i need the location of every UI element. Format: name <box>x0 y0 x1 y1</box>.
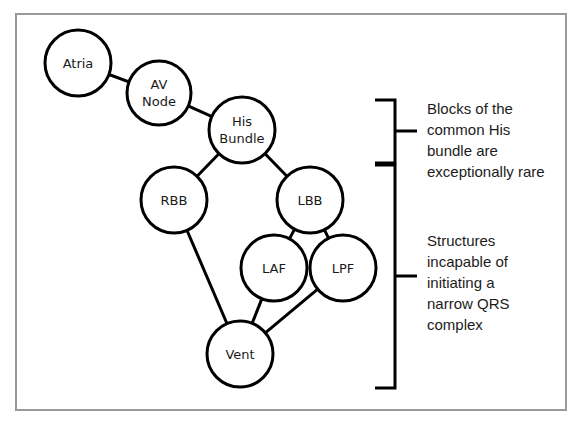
edge-his-bundle-to-lbb <box>264 152 289 178</box>
annotation-text-lower: Structures incapable of initiating a nar… <box>427 230 577 335</box>
edge-atria-to-av-node <box>107 74 131 83</box>
edge-laf-to-vent <box>251 297 262 325</box>
node-label-lbb: LBB <box>297 193 322 208</box>
node-circle-his-bundle[interactable] <box>209 97 275 163</box>
node-av-node[interactable]: AVNode <box>127 61 191 125</box>
node-label-rbb: RBB <box>161 193 188 208</box>
diagram-canvas: AtriaAVNodeHisBundleRBBLBBLAFLPFVent Blo… <box>0 0 585 429</box>
bracket-lower <box>375 165 395 388</box>
node-lpf[interactable]: LPF <box>310 235 376 301</box>
node-atria[interactable]: Atria <box>45 30 111 96</box>
node-label-lpf: LPF <box>332 261 355 276</box>
edge-av-node-to-his-bundle <box>186 105 213 117</box>
annotation-text-upper: Blocks of the common His bundle are exce… <box>427 98 577 182</box>
node-laf[interactable]: LAF <box>241 235 307 301</box>
node-label-atria: Atria <box>63 56 94 71</box>
node-lbb[interactable]: LBB <box>277 167 343 233</box>
node-label-vent: Vent <box>225 347 254 362</box>
bracket-upper <box>375 100 395 163</box>
nodes-group: AtriaAVNodeHisBundleRBBLBBLAFLPFVent <box>45 30 376 387</box>
edge-rbb-to-vent <box>186 228 228 325</box>
node-label-laf: LAF <box>262 261 286 276</box>
node-vent[interactable]: Vent <box>207 321 273 387</box>
conduction-system-diagram: AtriaAVNodeHisBundleRBBLBBLAFLPFVent <box>0 0 585 429</box>
node-rbb[interactable]: RBB <box>141 167 207 233</box>
brackets-group <box>375 100 417 388</box>
node-circle-av-node[interactable] <box>127 61 191 125</box>
node-his-bundle[interactable]: HisBundle <box>209 97 275 163</box>
edge-his-bundle-to-rbb <box>196 152 221 178</box>
